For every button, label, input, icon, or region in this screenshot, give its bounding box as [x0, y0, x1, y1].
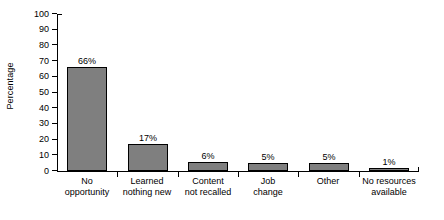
bar-value-label: 1%	[382, 158, 395, 167]
y-axis-tick: 90	[52, 29, 57, 30]
axis-right-end-tick	[418, 167, 419, 172]
bar: 5%	[248, 163, 288, 171]
y-axis-tick-label: 40	[39, 103, 49, 112]
bar-chart: Percentage 0102030405060708090100 66%17%…	[0, 0, 444, 220]
y-axis-tick: 70	[52, 60, 57, 61]
y-axis-tick-label: 60	[39, 72, 49, 81]
y-axis-tick-label: 20	[39, 135, 49, 144]
y-axis-tick: 50	[52, 92, 57, 93]
y-axis-tick: 20	[52, 139, 57, 140]
y-axis-tick: 60	[52, 76, 57, 77]
y-axis-tick: 80	[52, 44, 57, 45]
y-axis-tick: 30	[52, 123, 57, 124]
plot-area: 0102030405060708090100 66%17%6%5%5%1%	[57, 14, 419, 172]
bar: 6%	[188, 162, 228, 171]
y-axis-title: Percentage	[2, 0, 18, 172]
axis-top-corner-stub	[57, 14, 62, 15]
bar-value-label: 5%	[322, 153, 335, 162]
y-axis-tick-label: 80	[39, 40, 49, 49]
bar: 5%	[309, 163, 349, 171]
y-axis-tick-label: 10	[39, 150, 49, 159]
bar-value-label: 5%	[261, 153, 274, 162]
y-axis-tick-label: 70	[39, 56, 49, 65]
y-axis-line	[57, 14, 58, 172]
y-axis-tick-label: 90	[39, 25, 49, 34]
y-axis-tick-label: 30	[39, 119, 49, 128]
y-axis-tick-label: 0	[44, 166, 49, 175]
x-axis-category-label: No resources available	[353, 176, 425, 198]
bar-value-label: 17%	[139, 134, 157, 143]
bar: 1%	[369, 168, 409, 171]
y-axis-tick: 100	[52, 13, 57, 14]
y-axis-tick: 40	[52, 107, 57, 108]
y-axis-tick: 0	[52, 170, 57, 171]
bar: 17%	[128, 144, 168, 171]
bar: 66%	[67, 67, 107, 171]
y-axis-tick-label: 100	[34, 9, 49, 18]
bar-value-label: 6%	[201, 152, 214, 161]
bar-value-label: 66%	[78, 57, 96, 66]
y-axis-title-text: Percentage	[5, 62, 15, 109]
y-axis-tick-label: 50	[39, 88, 49, 97]
y-axis-tick: 10	[52, 154, 57, 155]
